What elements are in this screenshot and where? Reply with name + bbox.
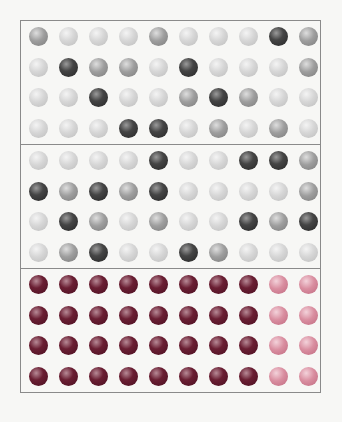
- light-ball: [59, 119, 78, 138]
- pink-ball: [269, 275, 288, 294]
- pink-ball: [269, 367, 288, 386]
- maroon-ball: [209, 336, 228, 355]
- dark-ball: [239, 212, 258, 231]
- dark-ball: [299, 212, 318, 231]
- light-ball: [29, 243, 48, 262]
- maroon-ball: [149, 336, 168, 355]
- light-ball: [119, 243, 138, 262]
- maroon-ball: [179, 306, 198, 325]
- light-ball: [269, 243, 288, 262]
- maroon-ball: [179, 367, 198, 386]
- mid-ball: [119, 58, 138, 77]
- maroon-ball: [239, 367, 258, 386]
- maroon-ball: [59, 336, 78, 355]
- light-ball: [59, 27, 78, 46]
- maroon-ball: [89, 367, 108, 386]
- light-ball: [179, 212, 198, 231]
- pink-ball: [299, 367, 318, 386]
- maroon-ball: [149, 306, 168, 325]
- light-ball: [239, 182, 258, 201]
- mid-ball: [299, 151, 318, 170]
- light-ball: [209, 182, 228, 201]
- light-ball: [59, 151, 78, 170]
- mid-ball: [179, 88, 198, 107]
- light-ball: [269, 182, 288, 201]
- maroon-ball: [209, 275, 228, 294]
- mid-ball: [269, 212, 288, 231]
- light-ball: [299, 119, 318, 138]
- light-ball: [269, 58, 288, 77]
- maroon-ball: [89, 275, 108, 294]
- light-ball: [149, 243, 168, 262]
- dark-ball: [59, 58, 78, 77]
- mid-ball: [299, 58, 318, 77]
- section-top: [21, 21, 320, 144]
- light-ball: [89, 119, 108, 138]
- mid-ball: [59, 182, 78, 201]
- light-ball: [239, 243, 258, 262]
- maroon-ball: [239, 275, 258, 294]
- light-ball: [209, 58, 228, 77]
- maroon-ball: [119, 367, 138, 386]
- light-ball: [149, 58, 168, 77]
- mid-ball: [149, 212, 168, 231]
- light-ball: [29, 212, 48, 231]
- section-middle: [21, 144, 320, 268]
- light-ball: [179, 151, 198, 170]
- light-ball: [89, 151, 108, 170]
- maroon-ball: [149, 275, 168, 294]
- maroon-ball: [209, 306, 228, 325]
- maroon-ball: [149, 367, 168, 386]
- light-ball: [29, 88, 48, 107]
- maroon-ball: [179, 275, 198, 294]
- light-ball: [299, 88, 318, 107]
- light-ball: [179, 182, 198, 201]
- mid-ball: [299, 27, 318, 46]
- pink-ball: [269, 306, 288, 325]
- maroon-ball: [209, 367, 228, 386]
- dark-ball: [269, 151, 288, 170]
- light-ball: [89, 27, 108, 46]
- maroon-ball: [179, 336, 198, 355]
- light-ball: [29, 119, 48, 138]
- dark-ball: [89, 88, 108, 107]
- light-ball: [119, 27, 138, 46]
- maroon-ball: [59, 367, 78, 386]
- dark-ball: [89, 182, 108, 201]
- mid-ball: [89, 212, 108, 231]
- maroon-ball: [29, 275, 48, 294]
- dark-ball: [179, 243, 198, 262]
- light-ball: [299, 243, 318, 262]
- maroon-ball: [89, 336, 108, 355]
- maroon-ball: [89, 306, 108, 325]
- light-ball: [239, 119, 258, 138]
- light-ball: [149, 88, 168, 107]
- pink-ball: [299, 306, 318, 325]
- light-ball: [119, 212, 138, 231]
- maroon-ball: [119, 306, 138, 325]
- maroon-ball: [239, 336, 258, 355]
- mid-ball: [119, 182, 138, 201]
- light-ball: [209, 212, 228, 231]
- light-ball: [209, 151, 228, 170]
- dark-ball: [29, 182, 48, 201]
- light-ball: [239, 58, 258, 77]
- mid-ball: [149, 27, 168, 46]
- light-ball: [119, 151, 138, 170]
- section-bottom: [21, 268, 320, 392]
- dark-ball: [59, 212, 78, 231]
- light-ball: [179, 27, 198, 46]
- mid-ball: [239, 88, 258, 107]
- dark-ball: [149, 119, 168, 138]
- light-ball: [29, 58, 48, 77]
- maroon-ball: [59, 306, 78, 325]
- light-ball: [239, 27, 258, 46]
- ball-grid-frame: [20, 20, 321, 393]
- light-ball: [59, 88, 78, 107]
- dark-ball: [269, 27, 288, 46]
- mid-ball: [209, 119, 228, 138]
- maroon-ball: [239, 306, 258, 325]
- light-ball: [269, 88, 288, 107]
- light-ball: [179, 119, 198, 138]
- maroon-ball: [29, 336, 48, 355]
